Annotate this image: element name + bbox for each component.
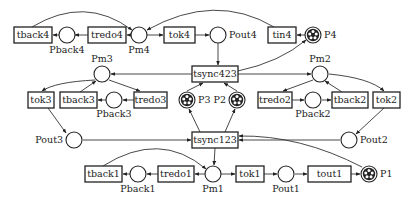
place-pout1: Pout1 — [272, 166, 300, 194]
place-label: Pback4 — [49, 44, 84, 55]
token-icon — [371, 171, 374, 174]
place-pback1: Pback1 — [120, 166, 155, 194]
token-icon — [186, 95, 189, 98]
transition-label: tback1 — [87, 168, 120, 179]
transition-label: tout1 — [317, 168, 343, 179]
place-p1: P1 — [361, 166, 392, 182]
place-circle-icon — [305, 92, 321, 108]
transition-tback2: tback2 — [332, 92, 368, 108]
transition-tredo1: tredo1 — [158, 166, 194, 182]
place-label: Pm3 — [91, 53, 112, 64]
transition-label: tback4 — [17, 29, 50, 40]
place-label: Pback2 — [295, 108, 330, 119]
token-icon — [188, 101, 191, 104]
place-circle-icon — [94, 66, 110, 82]
place-p4: P4 — [305, 27, 336, 43]
place-pout2: Pout2 — [341, 132, 388, 148]
transition-label: tredo3 — [135, 94, 167, 105]
place-pout4: Pout4 — [210, 27, 257, 43]
arc — [109, 80, 140, 91]
place-label: P3 — [198, 94, 210, 105]
token-icon — [308, 32, 311, 35]
arc — [238, 40, 306, 71]
token-icon — [314, 36, 317, 39]
place-circle-icon — [106, 92, 122, 108]
token-icon — [364, 171, 367, 174]
transition-tok3: tok3 — [28, 92, 54, 108]
place-circle-icon — [66, 132, 82, 148]
transition-tredo3: tredo3 — [134, 92, 167, 108]
transition-label: tback3 — [62, 94, 95, 105]
place-label: Pout3 — [35, 134, 63, 145]
transition-label: tok1 — [239, 168, 260, 179]
place-circle-icon — [131, 27, 147, 43]
transition-label: tsync423 — [193, 68, 237, 79]
place-circle-icon — [278, 166, 294, 182]
place-label: Pm2 — [309, 53, 330, 64]
arc — [48, 108, 66, 133]
transition-label: tsync123 — [193, 134, 237, 145]
token-icon — [232, 97, 235, 100]
transition-tback4: tback4 — [14, 27, 52, 43]
arc — [214, 148, 215, 165]
transition-label: tback2 — [334, 94, 367, 105]
transition-label: tredo2 — [259, 94, 291, 105]
arc — [225, 109, 235, 132]
transition-tredo2: tredo2 — [258, 92, 292, 108]
transition-tout1: tout1 — [308, 166, 351, 182]
place-label: Pback3 — [96, 108, 131, 119]
place-circle-icon — [205, 166, 221, 182]
arc — [325, 81, 342, 92]
transition-tok1: tok1 — [236, 166, 264, 182]
token-icon — [189, 97, 192, 100]
token-icon — [184, 101, 187, 104]
token-icon — [366, 175, 369, 178]
place-p3: P3 — [179, 92, 210, 108]
transition-tredo4: tredo4 — [88, 27, 126, 43]
transition-tback3: tback3 — [60, 92, 97, 108]
place-pout3: Pout3 — [35, 132, 82, 148]
arc — [42, 80, 95, 91]
place-pm1: Pm1 — [202, 166, 223, 194]
place-pm3: Pm3 — [91, 53, 112, 82]
token-icon — [239, 97, 242, 100]
transition-label: tredo1 — [160, 168, 192, 179]
place-label: Pout2 — [360, 134, 388, 145]
place-circle-icon — [130, 166, 146, 182]
place-pm4: Pm4 — [128, 27, 149, 55]
transition-tsync423: tsync423 — [192, 66, 238, 82]
place-label: P2 — [214, 94, 226, 105]
transition-tok2: tok2 — [373, 92, 400, 108]
place-pback3: Pback3 — [96, 92, 131, 119]
place-label: Pm1 — [202, 183, 223, 194]
transition-label: tok4 — [169, 29, 190, 40]
place-label: P1 — [380, 168, 392, 179]
transition-label: tin4 — [272, 29, 291, 40]
place-label: Pout1 — [272, 183, 300, 194]
token-icon — [368, 169, 371, 172]
arc — [356, 108, 384, 134]
token-icon — [312, 30, 315, 33]
transition-label: tok2 — [376, 94, 397, 105]
place-label: Pout4 — [229, 29, 257, 40]
petri-net-diagram: Pback4Pm4Pout4P4Pm3Pm2Pback3P3P2Pback2Po… — [0, 0, 415, 206]
place-circle-icon — [312, 66, 328, 82]
place-pm2: Pm2 — [309, 53, 330, 82]
transition-label: tredo4 — [91, 29, 123, 40]
transition-label: tok3 — [30, 94, 51, 105]
place-circle-icon — [59, 27, 75, 43]
token-icon — [236, 95, 239, 98]
place-label: Pback1 — [120, 183, 155, 194]
place-circle-icon — [341, 132, 357, 148]
transition-tok4: tok4 — [164, 27, 195, 43]
arc — [189, 109, 200, 132]
token-icon — [315, 32, 318, 35]
token-icon — [238, 101, 241, 104]
place-label: P4 — [324, 29, 336, 40]
transition-tsync123: tsync123 — [192, 132, 238, 148]
place-circle-icon — [210, 27, 226, 43]
place-p2: P2 — [214, 92, 245, 108]
token-icon — [370, 175, 373, 178]
place-pback4: Pback4 — [49, 27, 84, 55]
transition-tin4: tin4 — [268, 27, 296, 43]
